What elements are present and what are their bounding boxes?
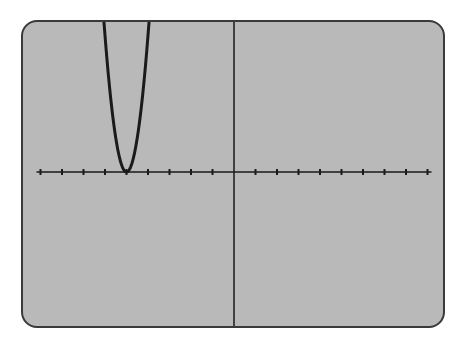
axes [37,22,432,326]
graph-plot [23,22,443,326]
calculator-screen [21,20,445,328]
parabola-curve [103,22,150,172]
